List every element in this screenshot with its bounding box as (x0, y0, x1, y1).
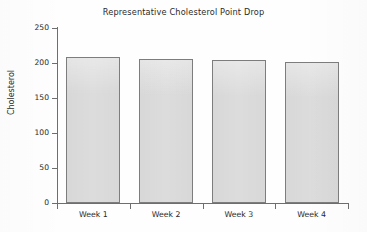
plot-area (57, 28, 348, 203)
x-axis-category-label: Week 3 (203, 210, 276, 219)
y-axis-tick-label: 0 (44, 198, 49, 207)
y-axis-tick-label: 50 (39, 163, 49, 172)
bar (285, 62, 339, 203)
y-axis-label: Cholesterol (7, 58, 16, 128)
y-axis-tick-label: 150 (35, 93, 50, 102)
chart-title: Representative Cholesterol Point Drop (0, 7, 367, 17)
chart-figure: Representative Cholesterol Point Drop Ch… (0, 0, 367, 232)
x-axis-category-label: Week 1 (57, 210, 130, 219)
x-axis-category-label: Week 4 (275, 210, 348, 219)
x-axis-tick (57, 204, 58, 209)
x-axis-category-label: Week 2 (130, 210, 203, 219)
y-axis-tick-label: 250 (35, 23, 50, 32)
y-axis-tick-label: 200 (35, 58, 50, 67)
bar (212, 60, 266, 203)
bar (66, 57, 120, 203)
x-axis-tick (203, 204, 204, 209)
bar (139, 59, 193, 203)
x-axis-tick (348, 204, 349, 209)
x-axis-tick (275, 204, 276, 209)
x-axis-tick (130, 204, 131, 209)
y-axis-tick-label: 100 (35, 128, 50, 137)
